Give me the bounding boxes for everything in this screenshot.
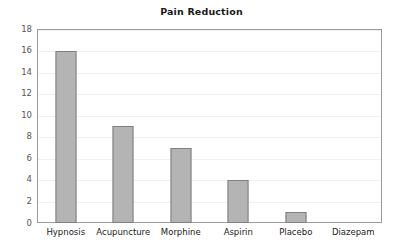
bar[interactable] [285,212,306,223]
y-axis-tick-label: 12 [6,89,32,98]
bar[interactable] [228,180,249,223]
y-axis-tick-label: 18 [6,25,32,34]
y-axis-tick-label: 2 [6,197,32,206]
y-axis-tick-label: 8 [6,132,32,141]
x-axis-tick-label: Morphine [152,228,210,237]
y-axis-tick-label: 10 [6,111,32,120]
x-axis-tick-label: Diazepam [325,228,383,237]
x-axis: HypnosisAcupunctureMorphineAspirinPlaceb… [37,228,382,248]
y-axis-tick-label: 14 [6,68,32,77]
bar-slot [325,29,383,223]
bar-slot [267,29,325,223]
x-axis-tick-label: Acupuncture [95,228,153,237]
y-axis-tick-label: 6 [6,154,32,163]
bars-layer [37,29,382,223]
bar[interactable] [113,126,134,223]
bar-slot [95,29,153,223]
x-axis-tick-label: Hypnosis [37,228,95,237]
y-axis-tick-label: 16 [6,46,32,55]
x-axis-tick-label: Placebo [267,228,325,237]
bar-slot [152,29,210,223]
bar-chart: Pain Reduction 181614121086420 HypnosisA… [0,0,403,252]
bar-slot [37,29,95,223]
y-axis-tick-label: 4 [6,175,32,184]
bar[interactable] [55,51,76,223]
chart-title: Pain Reduction [0,6,403,17]
x-axis-tick-label: Aspirin [210,228,268,237]
bar[interactable] [170,148,191,223]
bar-slot [210,29,268,223]
y-axis-tick-label: 0 [6,219,32,228]
